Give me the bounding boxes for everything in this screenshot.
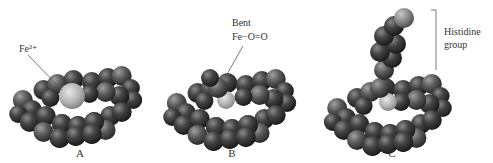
panel-c bbox=[324, 8, 452, 156]
atom-sphere bbox=[422, 110, 442, 130]
heme-diagram: Fe²⁺ Bent Fe−O=O Histidine group A B C bbox=[0, 0, 493, 163]
panel-label-a: A bbox=[76, 147, 84, 159]
atom-sphere bbox=[236, 127, 256, 147]
panel-a bbox=[9, 66, 142, 148]
atom-sphere bbox=[393, 132, 413, 152]
atom-sphere bbox=[96, 82, 116, 102]
histidine-bracket bbox=[431, 10, 436, 70]
atom-sphere bbox=[355, 97, 373, 115]
bound-oxygen bbox=[201, 69, 219, 87]
panel-b bbox=[163, 69, 296, 151]
bound-oxygen bbox=[370, 78, 390, 98]
iron-ion bbox=[59, 83, 85, 109]
atom-sphere bbox=[82, 124, 102, 144]
histidine-group bbox=[394, 8, 414, 28]
atom-sphere bbox=[266, 105, 286, 125]
panel-label-c: C bbox=[388, 147, 395, 159]
fe-o-o-label: Fe−O=O bbox=[232, 31, 268, 42]
panel-label-b: B bbox=[228, 147, 235, 159]
atom-sphere bbox=[250, 85, 270, 105]
atom-sphere bbox=[235, 88, 253, 106]
atom-sphere bbox=[41, 89, 59, 107]
bent-label: Bent bbox=[232, 17, 251, 28]
fe-ion-label: Fe²⁺ bbox=[19, 43, 37, 54]
group-label: group bbox=[444, 39, 467, 50]
histidine-label: Histidine bbox=[444, 26, 481, 37]
atom-sphere bbox=[112, 102, 132, 122]
